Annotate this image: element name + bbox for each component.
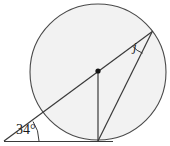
centre-point-dot xyxy=(95,68,100,73)
inscribed-angle-label: j xyxy=(133,40,137,53)
geometry-figure: 34° j xyxy=(0,0,170,146)
base-angle-label: 34° xyxy=(16,123,36,137)
